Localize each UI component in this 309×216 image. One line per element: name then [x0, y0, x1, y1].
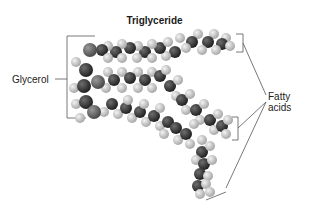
molecule-model [0, 0, 309, 216]
fatty-acid-chain-1 [96, 29, 235, 63]
triglyceride-diagram: Triglyceride Glycerol Fatty acids [0, 0, 309, 216]
